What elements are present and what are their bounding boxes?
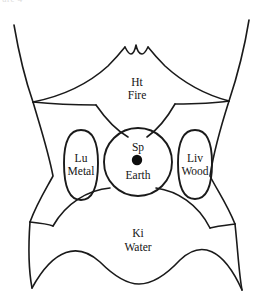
water-zone-left-boundary <box>53 188 110 226</box>
cropped-caption-fragment: ure 4 <box>2 0 23 2</box>
zone-label-liver-abbr: Liv <box>187 152 203 164</box>
zone-label-lung-abbr: Lu <box>75 152 88 164</box>
ribcage-arch-left <box>33 47 125 102</box>
inguinal-left-divider <box>30 222 53 226</box>
hip-right-outline <box>235 224 242 290</box>
zone-label-liver-element: Wood <box>181 165 208 177</box>
water-zone-right-boundary <box>156 188 210 228</box>
upper-right-quadrant-boundary <box>175 101 229 104</box>
ribcage-arch-right <box>148 47 229 101</box>
center-navel-dot <box>132 155 142 165</box>
fire-zone-right-divider <box>147 104 175 137</box>
zone-label-lung-element: Metal <box>68 165 95 177</box>
zone-label-spleen-abbr: Sp <box>132 141 144 154</box>
zone-label-kidney-abbr: Ki <box>132 227 144 239</box>
zone-label-spleen-element: Earth <box>126 169 151 181</box>
hara-diagram: ure 4 <box>0 0 271 303</box>
torso-left-flank-outline <box>14 25 53 222</box>
zone-label-heart-element: Fire <box>128 89 147 101</box>
hara-diagram-canvas: Ht Fire Lu Metal Sp Earth Liv Wood Ki Wa… <box>0 0 271 303</box>
hip-left-outline <box>29 222 32 288</box>
groin-bottom-contour <box>32 250 242 290</box>
zone-label-kidney-element: Water <box>124 241 151 253</box>
inguinal-right-divider <box>210 224 235 228</box>
xiphoid-notch <box>125 45 148 54</box>
upper-left-quadrant-boundary <box>33 102 96 105</box>
torso-right-flank-outline <box>210 20 249 224</box>
zone-label-heart-abbr: Ht <box>131 76 143 88</box>
